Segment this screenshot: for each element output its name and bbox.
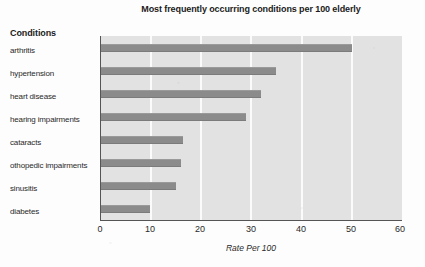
xtick-10: 10: [145, 224, 155, 234]
cat-label-cataracts: cataracts: [10, 138, 41, 147]
xtick-50: 50: [346, 224, 356, 234]
cat-label-arthritis: arthritis: [10, 46, 35, 55]
cat-label-hypertension: hypertension: [10, 69, 54, 78]
cat-label-diabetes: diabetes: [10, 207, 39, 216]
bar-cataracts: [100, 136, 183, 144]
xtick-40: 40: [296, 224, 306, 234]
gridline-30: [250, 36, 252, 220]
plot-area: [100, 36, 402, 220]
bar-heart-disease: [100, 90, 261, 98]
bar-hearing-impairments: [100, 113, 246, 121]
chart-figure: Most frequently occurring conditions per…: [0, 0, 425, 267]
bar-diabetes: [100, 205, 150, 213]
bar-sinusitis: [100, 182, 176, 190]
page-title: Most frequently occurring conditions per…: [100, 4, 402, 14]
gridline-40: [301, 36, 303, 220]
cat-label-hearing-impairments: hearing impairments: [10, 115, 80, 124]
y-axis-line: [100, 36, 101, 221]
cat-label-othopedic-impairments: othopedic impairments: [10, 161, 87, 170]
x-axis-line: [100, 220, 402, 221]
bar-hypertension: [100, 67, 276, 75]
xtick-60: 60: [395, 224, 405, 234]
gridline-20: [200, 36, 202, 220]
xtick-20: 20: [195, 224, 205, 234]
gridline-10: [150, 36, 152, 220]
bar-othopedic-impairments: [100, 159, 181, 167]
cat-label-sinusitis: sinusitis: [10, 184, 37, 193]
xtick-30: 30: [246, 224, 256, 234]
gridline-50: [351, 36, 353, 220]
y-axis-title: Conditions: [10, 28, 56, 38]
cat-label-heart-disease: heart disease: [10, 92, 56, 101]
x-axis-title: Rate Per 100: [100, 243, 402, 253]
bar-arthritis: [100, 44, 352, 52]
xtick-0: 0: [97, 224, 102, 234]
